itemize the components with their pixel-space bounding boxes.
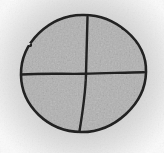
sketch-canvas (0, 0, 164, 153)
sketch-stage (0, 0, 164, 153)
